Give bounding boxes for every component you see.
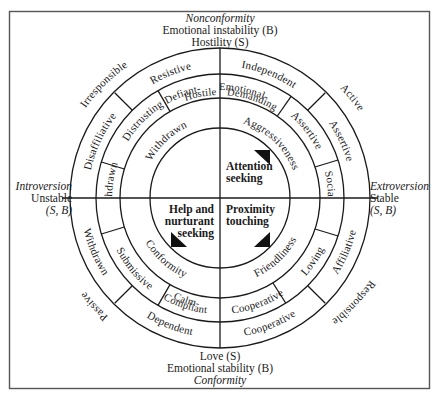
outer-label-passive: Passive <box>77 290 110 324</box>
axis-label-left: Introversion Unstable (S, B) <box>15 180 73 217</box>
ring3-label-withdrawn: Withdrawn <box>82 227 113 277</box>
ring1-label-withdrawn: Withdrawn <box>143 118 189 162</box>
ring3-label-assertive: Assertive <box>327 118 357 163</box>
ring1-labels: Withdrawn Aggressiveness Conformity Frie… <box>143 114 303 280</box>
ring2-label-assertive: Assertive <box>289 109 326 151</box>
axis-label-right: Extroversion Stable (S, B) <box>369 180 429 217</box>
center-proximity-line2: touching <box>226 215 269 228</box>
ring2-label-loving: Loving <box>298 244 326 277</box>
axis-label-top: Nonconformity Emotional instability (B) … <box>163 12 278 49</box>
ring2-label-withdrawn: Withdrawn <box>0 0 120 197</box>
center-help-line3: seeking <box>178 227 215 240</box>
axis-left-line3: (S, B) <box>46 204 72 217</box>
axis-right-line1: Extroversion <box>369 180 429 192</box>
triangle-marker-bottom-right-icon <box>254 232 270 247</box>
outer-label-active: Active <box>338 81 367 113</box>
axis-right-line3: (S, B) <box>370 204 396 217</box>
ring3-label-affiliative: Affiliative <box>329 228 358 275</box>
axis-right-line2: Stable <box>370 192 399 204</box>
circumplex-diagram: Nonconformity Emotional instability (B) … <box>0 0 438 398</box>
center-attention-line1: Attention <box>226 160 273 172</box>
outer-label-responsible: Responsible <box>330 279 378 328</box>
ring3-label-dependent: Dependent <box>145 308 194 337</box>
center-attention-line2: seeking <box>226 172 263 185</box>
axis-left-line1: Introversion <box>15 180 73 192</box>
axis-left-line2: Unstable <box>31 192 72 204</box>
center-help-line2: nurturant <box>165 215 214 227</box>
axis-bottom-line3: Conformity <box>194 374 247 387</box>
outer-label-irresponsible: Irresponsible <box>77 58 129 109</box>
axis-label-bottom: Love (S) Emotional stability (B) Conform… <box>167 350 273 387</box>
axis-top-line3: Hostility (S) <box>191 36 248 49</box>
